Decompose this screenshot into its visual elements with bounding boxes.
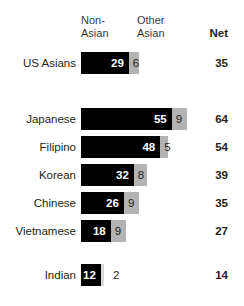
stacked-bar: 122 <box>81 264 104 286</box>
bar-segment-non-asian: 32 <box>81 164 134 186</box>
net-value: 54 <box>215 140 228 154</box>
bar-segment-other-asian: 2 <box>101 264 104 286</box>
bar-segment-non-asian: 48 <box>81 136 160 158</box>
chart-row: Korean32839 <box>0 164 244 186</box>
bar-value-non-asian: 29 <box>111 52 129 74</box>
row-label: Korean <box>0 168 76 182</box>
stacked-bar: 485 <box>81 136 168 158</box>
bar-value-other-asian: 8 <box>134 164 144 186</box>
bar-value-non-asian: 12 <box>83 264 101 286</box>
net-value: 35 <box>215 56 228 70</box>
row-label: Chinese <box>0 196 76 210</box>
column-header-net: Net <box>209 27 228 39</box>
column-header-non-asian: Non- Asian <box>81 14 139 40</box>
bar-segment-other-asian: 9 <box>124 192 139 214</box>
row-label: US Asians <box>0 56 76 70</box>
bar-segment-other-asian: 9 <box>172 108 187 130</box>
stacked-bar: 269 <box>81 192 139 214</box>
bar-value-non-asian: 55 <box>154 108 172 130</box>
stacked-bar: 559 <box>81 108 187 130</box>
stacked-bar: 328 <box>81 164 147 186</box>
chart-header: Non- Asian Other Asian Net <box>0 0 244 48</box>
bar-value-other-asian: 6 <box>129 52 139 74</box>
bar-value-other-asian: 2 <box>109 264 119 286</box>
bar-value-other-asian: 9 <box>124 192 134 214</box>
bar-segment-non-asian: 55 <box>81 108 172 130</box>
bar-value-other-asian: 5 <box>160 136 170 158</box>
stacked-bar: 189 <box>81 220 126 242</box>
row-label: Japanese <box>0 112 76 126</box>
chart-row: Vietnamese18927 <box>0 220 244 242</box>
bar-segment-non-asian: 26 <box>81 192 124 214</box>
bar-value-other-asian: 9 <box>172 108 182 130</box>
bar-value-non-asian: 32 <box>116 164 134 186</box>
bar-value-non-asian: 18 <box>93 220 111 242</box>
stacked-bar: 296 <box>81 52 139 74</box>
bar-segment-non-asian: 12 <box>81 264 101 286</box>
row-label: Indian <box>0 268 76 282</box>
row-label: Filipino <box>0 140 76 154</box>
bar-segment-other-asian: 6 <box>129 52 139 74</box>
chart-row: US Asians29635 <box>0 52 244 74</box>
chart-row: Filipino48554 <box>0 136 244 158</box>
bar-segment-non-asian: 29 <box>81 52 129 74</box>
bar-segment-other-asian: 8 <box>134 164 147 186</box>
bar-value-other-asian: 9 <box>111 220 121 242</box>
stacked-bar-chart: Non- Asian Other Asian Net US Asians2963… <box>0 0 244 306</box>
bar-segment-other-asian: 5 <box>160 136 168 158</box>
net-value: 64 <box>215 112 228 126</box>
net-value: 14 <box>215 268 228 282</box>
bar-segment-other-asian: 9 <box>111 220 126 242</box>
chart-row: Japanese55964 <box>0 108 244 130</box>
chart-row: Indian12214 <box>0 264 244 286</box>
net-value: 39 <box>215 168 228 182</box>
bar-value-non-asian: 48 <box>142 136 160 158</box>
column-header-other-asian: Other Asian <box>137 14 195 40</box>
row-label: Vietnamese <box>0 224 76 238</box>
net-value: 27 <box>215 224 228 238</box>
chart-row: Chinese26935 <box>0 192 244 214</box>
net-value: 35 <box>215 196 228 210</box>
bar-segment-non-asian: 18 <box>81 220 111 242</box>
bar-value-non-asian: 26 <box>106 192 124 214</box>
